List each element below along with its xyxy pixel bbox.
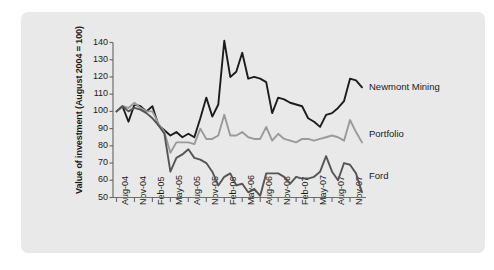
chart-figure: Value of investment (August 2004 = 100) … bbox=[0, 0, 494, 270]
axes-lines bbox=[113, 43, 366, 198]
data-series-lines bbox=[117, 41, 363, 196]
plot-area bbox=[0, 0, 494, 270]
